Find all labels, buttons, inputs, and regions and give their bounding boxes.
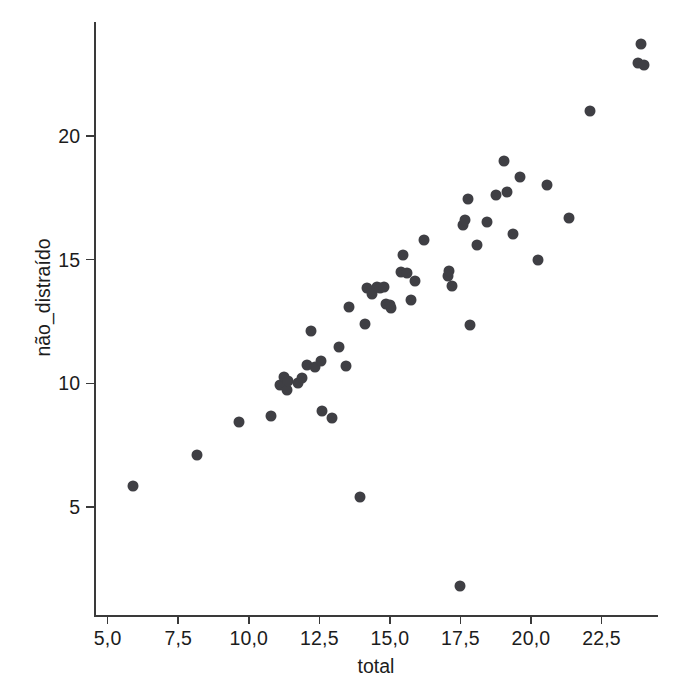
data-point	[191, 450, 202, 461]
y-tick-label: 5	[69, 496, 80, 519]
data-point	[444, 265, 455, 276]
data-point	[397, 249, 408, 260]
x-tick-mark	[177, 616, 179, 624]
data-point	[507, 228, 518, 239]
data-point	[564, 212, 575, 223]
y-tick-mark	[86, 135, 94, 137]
data-point	[455, 581, 466, 592]
data-point	[359, 318, 370, 329]
data-point	[418, 234, 429, 245]
data-point	[446, 280, 457, 291]
x-axis-title: total	[94, 655, 658, 678]
data-point	[462, 193, 473, 204]
y-tick-mark	[86, 506, 94, 508]
data-point	[482, 217, 493, 228]
data-point	[410, 275, 421, 286]
x-tick-label: 22,5	[582, 627, 621, 650]
x-tick-label: 12,5	[300, 627, 339, 650]
data-point	[465, 320, 476, 331]
data-point	[305, 326, 316, 337]
data-point	[386, 302, 397, 313]
data-point	[379, 281, 390, 292]
data-point	[297, 373, 308, 384]
data-point	[266, 410, 277, 421]
data-point	[638, 60, 649, 71]
x-tick-mark	[530, 616, 532, 624]
plot-canvas	[95, 22, 658, 616]
x-tick-label: 20,0	[512, 627, 551, 650]
x-tick-label: 10,0	[229, 627, 268, 650]
x-tick-mark	[107, 616, 109, 624]
x-tick-mark	[319, 616, 321, 624]
x-tick-mark	[601, 616, 603, 624]
data-point	[499, 155, 510, 166]
data-point	[472, 239, 483, 250]
x-tick-label: 17,5	[441, 627, 480, 650]
data-point	[514, 171, 525, 182]
data-point	[341, 361, 352, 372]
x-tick-mark	[460, 616, 462, 624]
data-point	[541, 180, 552, 191]
x-tick-label: 7,5	[164, 627, 192, 650]
data-point	[502, 186, 513, 197]
data-point	[128, 481, 139, 492]
y-axis-spine	[94, 22, 96, 617]
data-point	[533, 254, 544, 265]
scatter-plot-figure: 5,07,510,012,515,017,520,022,5 5101520 t…	[0, 0, 682, 693]
y-tick-label: 15	[58, 248, 80, 271]
data-point	[636, 39, 647, 50]
data-point	[315, 356, 326, 367]
data-point	[334, 342, 345, 353]
data-point	[317, 405, 328, 416]
data-point	[490, 190, 501, 201]
data-point	[459, 215, 470, 226]
y-tick-label: 10	[58, 372, 80, 395]
y-tick-label: 20	[58, 124, 80, 147]
data-point	[233, 416, 244, 427]
x-tick-label: 5,0	[94, 627, 122, 650]
data-point	[355, 492, 366, 503]
data-point	[343, 301, 354, 312]
y-axis-title: não_distraído	[32, 138, 55, 458]
data-point	[327, 413, 338, 424]
x-tick-mark	[248, 616, 250, 624]
data-point	[406, 295, 417, 306]
y-tick-mark	[86, 259, 94, 261]
data-point	[585, 106, 596, 117]
y-tick-mark	[86, 383, 94, 385]
x-tick-label: 15,0	[371, 627, 410, 650]
x-tick-mark	[389, 616, 391, 624]
